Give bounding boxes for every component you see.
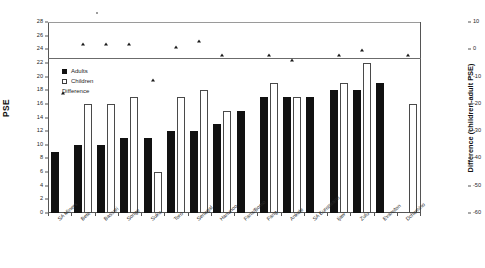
x-axis-tick-mark <box>118 213 119 216</box>
difference-marker-icon <box>151 78 155 81</box>
y-axis-right-tick-mark <box>468 185 471 186</box>
bar-group <box>257 22 280 213</box>
difference-marker-icon <box>174 45 178 48</box>
difference-marker-icon <box>220 54 224 57</box>
legend-label: Adults <box>71 68 88 74</box>
bar-children <box>293 97 301 213</box>
bar-group <box>118 22 141 213</box>
bar-adults <box>144 138 152 213</box>
x-axis-tick-mark <box>234 213 235 216</box>
bar-children <box>130 97 138 213</box>
y-axis-right-tick-mark <box>468 22 471 23</box>
bar-children <box>154 172 162 213</box>
bar-group <box>234 22 257 213</box>
difference-marker-icon <box>360 48 364 51</box>
bar-children <box>84 104 92 213</box>
bar-group <box>397 22 420 213</box>
x-axis-tick-mark <box>48 213 49 216</box>
difference-marker-icon <box>197 40 201 43</box>
y-axis-right-spine <box>420 22 421 213</box>
bar-adults <box>376 83 384 213</box>
x-axis-tick-mark <box>397 213 398 216</box>
legend-swatch-filled-square-icon <box>62 69 67 74</box>
bar-group <box>188 22 211 213</box>
bar-adults <box>97 145 105 213</box>
x-axis-tick-mark <box>304 213 305 216</box>
y-axis-right-tick-mark <box>468 131 471 132</box>
bar-group <box>211 22 234 213</box>
bar-adults <box>167 131 175 213</box>
bar-children <box>270 83 278 213</box>
difference-marker-icon <box>127 43 131 46</box>
bar-children <box>223 111 231 213</box>
bar-group <box>304 22 327 213</box>
x-axis-tick-mark <box>350 213 351 216</box>
legend-item-children: Children <box>62 76 93 86</box>
difference-marker-icon <box>81 43 85 46</box>
x-axis-tick-mark <box>420 213 421 216</box>
bar-children <box>340 83 348 213</box>
legend-item-adults: Adults <box>62 66 93 76</box>
chart-container: PSE Difference (children-adult PSE) 0246… <box>0 0 485 268</box>
bar-adults <box>237 111 245 213</box>
chart-legend: Adults Children Difference <box>62 66 93 96</box>
bar-adults <box>213 124 221 213</box>
legend-swatch-open-square-icon <box>62 79 67 84</box>
bar-group <box>141 22 164 213</box>
bar-adults <box>306 97 314 213</box>
bar-children <box>200 90 208 213</box>
y-axis-right-tick-mark <box>468 158 471 159</box>
x-axis-tick-mark <box>257 213 258 216</box>
bar-children <box>177 97 185 213</box>
bar-adults <box>51 152 59 213</box>
bar-group <box>164 22 187 213</box>
difference-marker-icon <box>337 54 341 57</box>
x-axis-tick-mark <box>374 213 375 216</box>
legend-item-difference: Difference <box>62 86 93 96</box>
y-axis-right-tick-mark <box>468 213 471 214</box>
bar-adults <box>190 131 198 213</box>
difference-marker-icon <box>290 59 294 62</box>
x-axis-tick-mark <box>71 213 72 216</box>
x-axis-tick-mark <box>164 213 165 216</box>
legend-label: Difference <box>62 88 89 94</box>
y-axis-right-tick-mark <box>468 103 471 104</box>
bar-adults <box>260 97 268 213</box>
bar-group <box>95 22 118 213</box>
legend-label: Children <box>71 78 93 84</box>
bar-adults <box>120 138 128 213</box>
plot-area: 0246810121416182022242628 100-10-20-30-4… <box>48 22 420 213</box>
legend-swatch-triangle-icon <box>61 91 65 94</box>
difference-marker-icon <box>267 54 271 57</box>
y-axis-right-tick-mark <box>468 49 471 50</box>
bar-adults <box>353 90 361 213</box>
bar-group <box>281 22 304 213</box>
x-axis-tick-mark <box>188 213 189 216</box>
bar-group <box>48 22 71 213</box>
x-axis-tick-mark <box>327 213 328 216</box>
x-axis-tick-mark <box>95 213 96 216</box>
bar-children <box>363 63 371 213</box>
x-axis-tick-label: Ijaw <box>336 212 347 222</box>
x-axis-tick-mark <box>141 213 142 216</box>
stray-speck <box>96 12 98 14</box>
y-axis-right-tick-mark <box>468 76 471 77</box>
bar-group <box>374 22 397 213</box>
bar-group <box>71 22 94 213</box>
bar-children <box>409 104 417 213</box>
y-axis-title-left: PSE <box>1 99 11 117</box>
difference-marker-icon <box>406 54 410 57</box>
x-axis-tick-mark <box>281 213 282 216</box>
bar-group <box>327 22 350 213</box>
bar-children <box>107 104 115 213</box>
bar-adults <box>283 97 291 213</box>
x-axis-tick-mark <box>211 213 212 216</box>
difference-marker-icon <box>104 43 108 46</box>
